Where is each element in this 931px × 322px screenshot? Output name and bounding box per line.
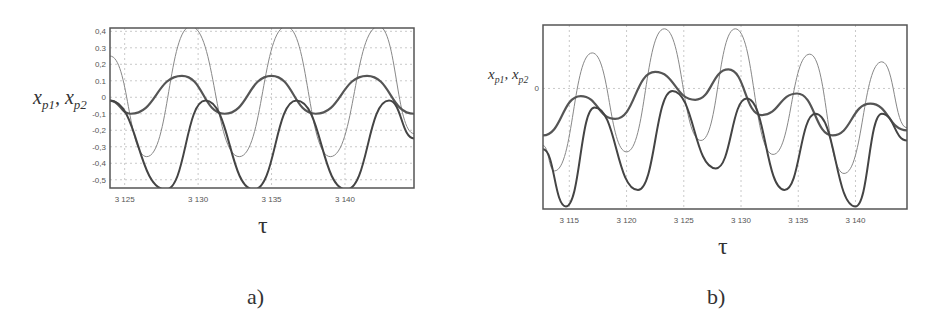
chart-b-x-axis-label: τ [718, 233, 728, 260]
chart-a-gridlines [110, 28, 414, 188]
x-tick-label: 3 140 [335, 195, 356, 204]
y-tick-label: 0 [535, 84, 540, 93]
y-label-var1: x [488, 66, 495, 82]
chart-panel-b: 0 3 1153 1203 1253 1303 1353 140 xp1, xp… [460, 0, 931, 322]
x-tick-label: 3 130 [731, 216, 752, 225]
series-line [543, 29, 907, 174]
chart-b-caption: b) [707, 284, 725, 310]
y-label-var1: x [33, 86, 42, 108]
chart-panel-a: 0,40.30,20.10-0,1-0,2-0,3-0,4-0,5 3 1253… [0, 0, 460, 322]
chart-b-y-ticks: 0 [535, 84, 540, 93]
y-label-var2: x [65, 86, 74, 108]
x-tick-label: 3 125 [674, 216, 695, 225]
y-label-var2: x [512, 66, 519, 82]
y-tick-label: 0.1 [95, 77, 107, 86]
chart-a-frame [110, 28, 414, 188]
x-tick-label: 3 130 [188, 195, 209, 204]
y-tick-label: 0,2 [95, 60, 107, 69]
chart-a-x-ticks: 3 1253 1303 1353 140 [115, 195, 356, 204]
chart-a-y-ticks: 0,40.30,20.10-0,1-0,2-0,3-0,4-0,5 [92, 27, 106, 184]
x-tick-label: 3 135 [788, 216, 809, 225]
x-tick-label: 3 120 [617, 216, 638, 225]
chart-a-plot: 0,40.30,20.10-0,1-0,2-0,3-0,4-0,5 3 1253… [0, 0, 460, 230]
x-tick-label: 3 115 [560, 216, 580, 225]
chart-a-curves [110, 26, 414, 189]
y-label-sub1: p1 [42, 97, 55, 112]
y-tick-label: -0,1 [92, 110, 106, 119]
series-line [543, 69, 907, 135]
y-label-sub1: p1 [495, 74, 505, 85]
y-label-sep: , [55, 86, 65, 108]
chart-b-plot: 0 3 1153 1203 1253 1303 1353 140 [460, 0, 931, 260]
y-tick-label: -0,3 [92, 143, 106, 152]
x-tick-label: 3 135 [262, 195, 283, 204]
chart-a-y-axis-label: xp1, xp2 [33, 86, 87, 113]
y-label-sub2: p2 [74, 97, 87, 112]
y-tick-label: 0 [102, 93, 107, 102]
y-tick-label: -0,2 [92, 126, 106, 135]
x-tick-label: 3 140 [845, 216, 866, 225]
series-line [543, 91, 907, 206]
chart-a-x-axis-label: τ [258, 212, 268, 239]
y-tick-label: 0,4 [95, 27, 107, 36]
y-label-sep: , [504, 66, 512, 82]
y-tick-label: 0.3 [95, 44, 107, 53]
chart-b-x-ticks: 3 1153 1203 1253 1303 1353 140 [560, 216, 866, 225]
x-tick-label: 3 125 [115, 195, 136, 204]
y-tick-label: -0,4 [92, 159, 106, 168]
chart-a-caption: a) [247, 284, 264, 310]
chart-b-curves [543, 29, 907, 207]
y-tick-label: -0,5 [92, 176, 106, 185]
y-label-sub2: p2 [519, 74, 529, 85]
chart-b-y-axis-label: xp1, xp2 [488, 66, 528, 85]
series-line [110, 26, 414, 156]
